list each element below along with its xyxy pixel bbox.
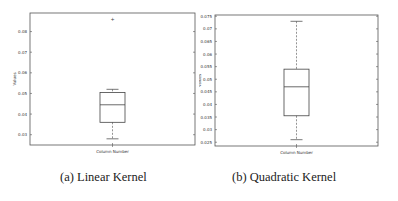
y-tick-label: 0.04: [18, 112, 27, 117]
y-axis-label: Values: [199, 74, 202, 87]
chart-linear-kernel: 0.030.040.050.060.070.08ValuesColumn Num…: [0, 0, 199, 160]
y-tick-label: 0.06: [203, 52, 212, 57]
y-tick-label: 0.035: [201, 115, 213, 120]
outlier-marker: +: [110, 16, 114, 22]
y-tick-label: 0.07: [18, 50, 27, 55]
y-tick-label: 0.055: [201, 64, 213, 69]
y-tick-label: 0.03: [18, 132, 27, 137]
x-axis-label: Column Number: [280, 150, 313, 155]
y-tick-label: 0.08: [18, 29, 27, 34]
y-tick-label: 0.06: [18, 70, 27, 75]
y-tick-label: 0.025: [201, 140, 213, 145]
chart-quadratic-kernel: 0.0250.030.0350.040.0450.050.0550.060.06…: [199, 0, 398, 160]
boxplot-linear: 0.030.040.050.060.070.08ValuesColumn Num…: [0, 0, 199, 160]
y-tick-label: 0.05: [203, 77, 212, 82]
caption-quadratic-kernel: (b) Quadratic Kernel: [232, 170, 336, 185]
caption-linear-kernel: (a) Linear Kernel: [60, 170, 147, 185]
y-tick-label: 0.03: [203, 127, 212, 132]
y-tick-label: 0.065: [201, 39, 213, 44]
y-tick-label: 0.04: [203, 102, 212, 107]
y-tick-label: 0.045: [201, 89, 213, 94]
x-axis-label: Column Number: [96, 149, 129, 154]
y-axis-label: Values: [12, 72, 17, 85]
y-tick-label: 0.07: [203, 26, 212, 31]
iqr-box: [100, 92, 125, 122]
iqr-box: [284, 69, 309, 116]
axes-frame: [30, 13, 195, 145]
boxplot-quadratic: 0.0250.030.0350.040.0450.050.0550.060.06…: [199, 0, 398, 160]
y-tick-label: 0.05: [18, 91, 27, 96]
y-tick-label: 0.075: [201, 14, 213, 19]
